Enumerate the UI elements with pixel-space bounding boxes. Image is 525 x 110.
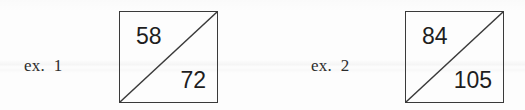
square-figure-1: 58 72 bbox=[119, 11, 218, 103]
lower-right-value-2: 105 bbox=[454, 68, 492, 92]
example-item-2: ex. 2 84 105 bbox=[287, 0, 525, 110]
upper-left-value-1: 58 bbox=[136, 24, 162, 48]
example-label-1: ex. 1 bbox=[24, 57, 63, 75]
worksheet-page: ex. 1 58 72 ex. 2 84 105 bbox=[0, 0, 525, 110]
lower-right-value-1: 72 bbox=[180, 68, 206, 92]
upper-left-value-2: 84 bbox=[422, 24, 448, 48]
example-label-2: ex. 2 bbox=[311, 57, 350, 75]
example-item-1: ex. 1 58 72 bbox=[0, 0, 262, 110]
square-figure-2: 84 105 bbox=[405, 11, 504, 103]
